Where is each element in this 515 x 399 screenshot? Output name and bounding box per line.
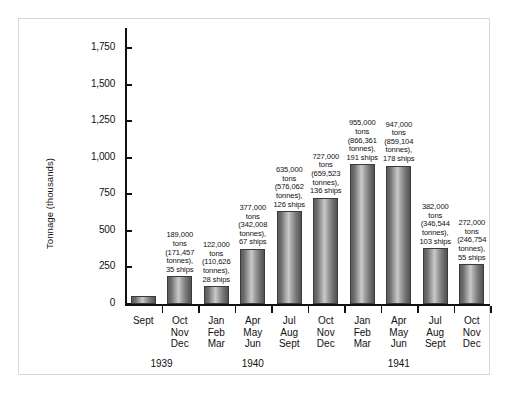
x-axis-tick	[417, 306, 419, 313]
y-axis-tick-label: 1,500	[69, 78, 115, 89]
bar-value-label-line: 67 ships	[229, 238, 277, 247]
y-axis-tick	[125, 84, 132, 86]
bar-bar-1940-q2	[240, 249, 265, 304]
x-axis-tick	[490, 306, 492, 313]
y-axis-tick	[125, 157, 132, 159]
y-axis-tick	[125, 230, 132, 232]
bar-value-label: 122,000tons(110,626tonnes),28 ships	[192, 241, 240, 284]
x-axis-tick	[271, 306, 273, 313]
x-axis-year-label: 1939	[132, 358, 192, 369]
y-axis-tick	[125, 266, 132, 268]
bar-bar-1941-q3	[423, 248, 448, 304]
bar-chart: Tonnage (thousands) 1,7501,5001,2501,000…	[0, 0, 515, 399]
bar-bar-1940-q3	[277, 211, 302, 304]
x-axis-year-label: 1940	[223, 358, 283, 369]
y-axis-tick-label: 0	[69, 297, 115, 308]
y-axis-tick-label: 1,250	[69, 114, 115, 125]
x-axis-year-label: 1941	[369, 358, 429, 369]
x-axis-tick	[381, 306, 383, 313]
x-axis-category-label: OctNovDec	[448, 315, 496, 350]
bar-value-label-line: 136 ships	[302, 187, 350, 196]
bar-bar-1941-q4	[459, 264, 484, 304]
y-axis-tick-label: 250	[69, 260, 115, 271]
x-axis-tick	[454, 306, 456, 313]
x-axis-tick	[162, 306, 164, 313]
x-axis-category-line: Nov	[448, 327, 496, 339]
bar-value-label: 947,000tons(859,104tonnes),178 ships	[375, 121, 423, 164]
x-axis-tick	[235, 306, 237, 313]
y-axis-tick-label: 750	[69, 187, 115, 198]
bar-bar-1941-q2	[386, 166, 411, 304]
bar-value-label: 377,000tons(342,008tonnes),67 ships	[229, 204, 277, 247]
x-axis-tick	[308, 306, 310, 313]
x-axis-tick	[344, 306, 346, 313]
y-axis-tick-label: 1,000	[69, 151, 115, 162]
bar-value-label: 272,000tons(246,754tonnes),55 ships	[448, 219, 496, 262]
x-axis-category-line: Oct	[448, 315, 496, 327]
y-axis-tick-label: 500	[69, 224, 115, 235]
bar-value-label-line: 126 ships	[265, 201, 313, 210]
y-axis-tick	[125, 193, 132, 195]
y-axis-title: Tonnage (thousands)	[44, 114, 55, 294]
bar-bar-1941-q1	[350, 164, 375, 304]
bar-bar-1940-q1	[204, 286, 229, 304]
bar-value-label-line: 28 ships	[192, 276, 240, 285]
bar-value-label-line: 178 ships	[375, 155, 423, 164]
y-axis-tick	[125, 120, 132, 122]
y-axis-tick-label: 1,750	[69, 41, 115, 52]
x-axis-tick	[198, 306, 200, 313]
y-axis-tick	[125, 47, 132, 49]
x-axis-category-line: Dec	[448, 338, 496, 350]
bar-bar-1939-sept	[131, 296, 156, 304]
bar-bar-1939-q4	[167, 276, 192, 304]
bar-bar-1940-q4	[313, 198, 338, 304]
y-axis-line	[125, 28, 127, 306]
bar-value-label-line: 55 ships	[448, 254, 496, 263]
